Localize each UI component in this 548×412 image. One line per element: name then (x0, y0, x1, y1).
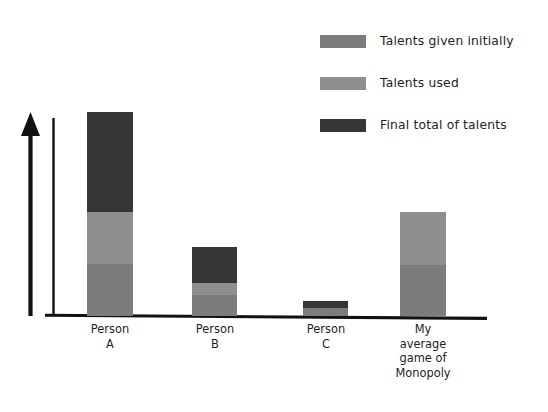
legend-item-final-total[interactable]: Final total of talents (320, 104, 542, 146)
x-tick-label-person-a: Person A (65, 322, 155, 351)
bar-segment-final-total (192, 247, 237, 283)
legend-item-label: Talents used (380, 77, 459, 89)
bar-person-c[interactable] (303, 301, 348, 316)
bar-segment-talents-given (87, 264, 133, 316)
bar-person-a[interactable] (87, 112, 133, 316)
legend-swatch-icon (320, 119, 366, 132)
legend-swatch-icon (320, 35, 366, 48)
x-tick-label-monopoly: My average game of Monopoly (378, 322, 468, 380)
bar-segment-talents-given (303, 308, 348, 316)
bar-person-b[interactable] (192, 247, 237, 316)
bar-segment-final-total (303, 301, 348, 308)
bar-segment-talents-used (87, 212, 133, 264)
bar-segment-talents-used (192, 283, 237, 295)
bar-monopoly[interactable] (400, 212, 446, 316)
chart-legend: Talents given initially Talents used Fin… (320, 20, 542, 146)
legend-item-label: Final total of talents (380, 119, 507, 131)
legend-item-talents-given[interactable]: Talents given initially (320, 20, 542, 62)
bar-segment-talents-used (400, 212, 446, 265)
x-tick-label-person-c: Person C (281, 322, 371, 351)
bar-segment-talents-given (400, 265, 446, 316)
legend-item-label: Talents given initially (380, 35, 514, 47)
bar-segment-final-total (87, 112, 133, 212)
bar-segment-talents-given (192, 295, 237, 316)
legend-item-talents-used[interactable]: Talents used (320, 62, 542, 104)
legend-swatch-icon (320, 77, 366, 90)
x-tick-label-person-b: Person B (170, 322, 260, 351)
chart-canvas: Person A Person B Person C My average ga… (0, 0, 548, 412)
